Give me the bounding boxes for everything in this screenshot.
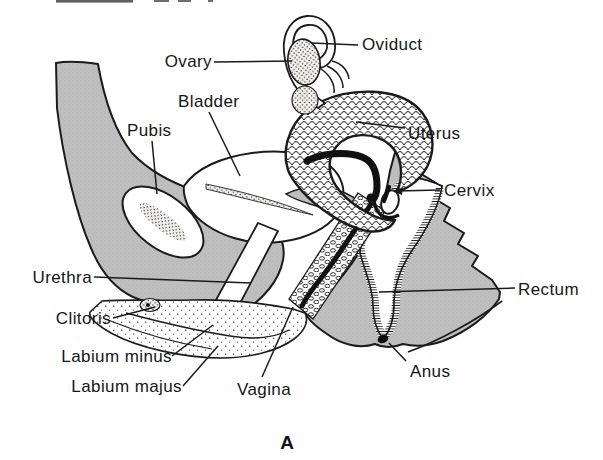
label-vagina: Vagina <box>237 380 291 399</box>
label-labium-minus: Labium minus <box>61 347 172 366</box>
isthmus-tissue <box>292 86 318 114</box>
panel-letter: A <box>280 432 294 453</box>
figure-panel: Oviduct Ovary Bladder Pubis Uterus Cervi… <box>0 0 603 460</box>
label-rectum: Rectum <box>518 280 579 299</box>
leader-cervix <box>397 190 440 191</box>
label-pubis: Pubis <box>127 121 172 140</box>
label-ovary: Ovary <box>165 52 212 71</box>
label-clitoris: Clitoris <box>56 309 111 328</box>
label-uterus: Uterus <box>408 124 460 143</box>
label-oviduct: Oviduct <box>362 35 422 54</box>
label-cervix: Cervix <box>444 181 495 200</box>
anatomy-illustration: Oviduct Ovary Bladder Pubis Uterus Cervi… <box>0 0 603 460</box>
label-anus: Anus <box>410 362 450 381</box>
label-urethra: Urethra <box>33 268 93 287</box>
leader-oviduct <box>312 43 358 45</box>
label-labium-majus: Labium majus <box>71 377 182 396</box>
leader-ovary <box>214 61 292 62</box>
cropped-text-fragments <box>56 0 213 3</box>
label-bladder: Bladder <box>178 92 239 111</box>
